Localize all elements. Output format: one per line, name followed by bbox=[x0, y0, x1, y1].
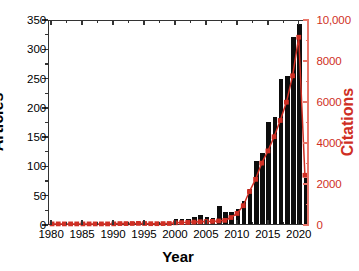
y-tick-label: 300 bbox=[27, 43, 46, 55]
citation-articles-chart: 050100150200250300350 020004000600080001… bbox=[0, 0, 359, 271]
y2-tick bbox=[303, 224, 309, 226]
y2-tick-label: 4000 bbox=[316, 137, 341, 149]
citation-marker bbox=[148, 221, 153, 226]
x-tick-label: 2010 bbox=[224, 228, 249, 240]
citation-marker bbox=[259, 161, 264, 166]
x-tick-label: 2000 bbox=[162, 228, 187, 240]
x-minor-tick bbox=[128, 222, 129, 225]
citation-marker bbox=[247, 189, 252, 194]
x-tick bbox=[143, 220, 145, 225]
y2-minor-tick bbox=[306, 204, 310, 205]
y2-tick-label: 2000 bbox=[316, 178, 341, 190]
citation-marker bbox=[56, 222, 61, 227]
x-tick bbox=[298, 220, 300, 225]
x-minor-tick-top bbox=[159, 20, 160, 23]
x-tick bbox=[236, 220, 238, 225]
plot-area bbox=[48, 20, 308, 225]
y-minor-tick bbox=[45, 210, 49, 211]
x-tick-label: 1980 bbox=[39, 228, 64, 240]
x-axis-title: Year bbox=[162, 248, 194, 265]
x-tick bbox=[112, 220, 114, 225]
citation-marker bbox=[296, 35, 301, 40]
x-tick bbox=[205, 220, 207, 225]
citation-marker bbox=[118, 221, 123, 226]
y-tick-label: 250 bbox=[27, 73, 46, 85]
x-tick-top bbox=[174, 20, 176, 25]
x-tick-top bbox=[112, 20, 114, 25]
x-minor-tick-top bbox=[66, 20, 67, 23]
y2-minor-tick bbox=[306, 40, 310, 41]
citation-marker bbox=[266, 149, 271, 154]
x-minor-tick bbox=[190, 222, 191, 225]
x-tick-label: 2020 bbox=[286, 228, 311, 240]
citation-line-series bbox=[49, 21, 308, 224]
citation-marker bbox=[136, 221, 141, 226]
x-tick-top bbox=[205, 20, 207, 25]
citation-marker bbox=[235, 211, 240, 216]
y2-tick bbox=[303, 101, 309, 103]
y2-minor-tick bbox=[306, 163, 310, 164]
y2-tick-label: 8000 bbox=[316, 55, 341, 67]
x-tick-label: 1990 bbox=[100, 228, 125, 240]
x-minor-tick-top bbox=[221, 20, 222, 23]
y2-tick bbox=[303, 183, 309, 185]
citation-marker bbox=[278, 118, 283, 123]
x-tick bbox=[50, 220, 52, 225]
y2-tick bbox=[303, 19, 309, 21]
y2-tick-label: 0 bbox=[316, 219, 322, 231]
x-minor-tick bbox=[66, 222, 67, 225]
x-tick-label: 1985 bbox=[69, 228, 94, 240]
y2-tick-label: 6000 bbox=[316, 96, 341, 108]
citation-marker bbox=[192, 220, 197, 225]
x-tick-top bbox=[236, 20, 238, 25]
citation-marker bbox=[210, 219, 215, 224]
citation-marker bbox=[130, 221, 135, 226]
citation-marker bbox=[229, 215, 234, 220]
x-tick-label: 2015 bbox=[255, 228, 280, 240]
citation-marker bbox=[179, 220, 184, 225]
x-minor-tick-top bbox=[283, 20, 284, 23]
x-minor-tick-top bbox=[190, 20, 191, 23]
citation-marker bbox=[222, 218, 227, 223]
x-tick-top bbox=[143, 20, 145, 25]
citation-marker bbox=[241, 203, 246, 208]
y-minor-tick bbox=[45, 93, 49, 94]
citation-marker bbox=[253, 177, 258, 182]
y2-minor-tick bbox=[306, 81, 310, 82]
citation-polyline bbox=[52, 37, 305, 224]
y-minor-tick bbox=[45, 180, 49, 181]
x-tick-label: 1995 bbox=[131, 228, 156, 240]
citation-marker bbox=[99, 222, 104, 227]
citation-marker bbox=[198, 219, 203, 224]
x-minor-tick-top bbox=[252, 20, 253, 23]
citation-marker bbox=[272, 134, 277, 139]
x-tick-top bbox=[298, 20, 300, 25]
x-minor-tick bbox=[97, 222, 98, 225]
x-tick-label: 2005 bbox=[193, 228, 218, 240]
y2-tick bbox=[303, 142, 309, 144]
y2-minor-tick bbox=[306, 122, 310, 123]
y-tick-label: 50 bbox=[33, 190, 46, 202]
x-tick-top bbox=[81, 20, 83, 25]
y-tick-label: 100 bbox=[27, 160, 46, 172]
x-tick-top bbox=[267, 20, 269, 25]
citation-marker bbox=[68, 222, 73, 227]
y-axis-title: Articles bbox=[0, 93, 7, 152]
x-minor-tick-top bbox=[128, 20, 129, 23]
x-minor-tick bbox=[252, 222, 253, 225]
y-tick-label: 200 bbox=[27, 102, 46, 114]
citation-marker bbox=[167, 221, 172, 226]
x-tick-top bbox=[50, 20, 52, 25]
citation-marker bbox=[284, 100, 289, 105]
citation-marker bbox=[74, 222, 79, 227]
x-tick bbox=[267, 220, 269, 225]
x-tick bbox=[81, 220, 83, 225]
citation-marker bbox=[161, 221, 166, 226]
y2-axis-title: Citations bbox=[339, 88, 357, 156]
y-minor-tick bbox=[45, 34, 49, 35]
citation-marker bbox=[105, 222, 110, 227]
x-tick bbox=[174, 220, 176, 225]
x-minor-tick bbox=[159, 222, 160, 225]
y-minor-tick bbox=[45, 122, 49, 123]
y-minor-tick bbox=[45, 63, 49, 64]
